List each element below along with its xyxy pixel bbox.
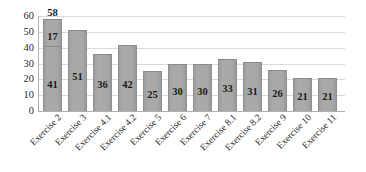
bar[interactable]: 42 xyxy=(118,45,137,112)
bar-segment[interactable]: 21 xyxy=(318,78,337,111)
y-tick-label: 40 xyxy=(4,42,34,53)
bar-chart: 60 50 40 30 20 10 0 58 17 41 51 xyxy=(0,0,366,172)
x-axis-line xyxy=(38,111,345,112)
bar[interactable]: 21 xyxy=(293,78,312,111)
y-tick-label: 50 xyxy=(4,27,34,38)
y-tick-label: 0 xyxy=(4,106,34,117)
bar-segment[interactable]: 26 xyxy=(268,70,287,111)
bar-value-label: 33 xyxy=(219,84,236,95)
bar[interactable]: 30 xyxy=(193,64,212,112)
bar-slot: 21 xyxy=(293,16,312,111)
bar[interactable]: 25 xyxy=(143,71,162,111)
bar-segment[interactable]: 30 xyxy=(193,64,212,112)
bar-slot: 33 xyxy=(218,16,237,111)
bar-segment-upper[interactable]: 17 xyxy=(43,19,62,46)
bar-segment-lower[interactable]: 41 xyxy=(43,46,62,111)
bar-series: 58 17 41 51 36 xyxy=(39,16,345,111)
bar-slot: 30 xyxy=(193,16,212,111)
bar-value-label: 36 xyxy=(94,80,111,91)
bar-segment-label: 17 xyxy=(44,32,61,43)
bar-segment[interactable]: 21 xyxy=(293,78,312,111)
bar[interactable]: 36 xyxy=(93,54,112,111)
bar-segment-label: 41 xyxy=(44,80,61,91)
bar-segment[interactable]: 31 xyxy=(243,62,262,111)
bar-slot: 51 xyxy=(68,16,87,111)
bar-segment[interactable]: 42 xyxy=(118,45,137,112)
bar[interactable]: 31 xyxy=(243,62,262,111)
bar-slot: 42 xyxy=(118,16,137,111)
bar-segment[interactable]: 51 xyxy=(68,30,87,111)
bar-slot: 58 17 41 xyxy=(43,16,62,111)
y-tick-label: 30 xyxy=(4,58,34,69)
bar-slot: 21 xyxy=(318,16,337,111)
bar-slot: 31 xyxy=(243,16,262,111)
bar-value-label: 25 xyxy=(144,90,161,101)
y-tick-label: 10 xyxy=(4,90,34,101)
bar-slot: 25 xyxy=(143,16,162,111)
bar-slot: 26 xyxy=(268,16,287,111)
bar[interactable]: 17 41 xyxy=(43,19,62,111)
bar-slot: 30 xyxy=(168,16,187,111)
bar-value-label: 21 xyxy=(294,92,311,103)
bar[interactable]: 51 xyxy=(68,30,87,111)
bar-segment[interactable]: 36 xyxy=(93,54,112,111)
bar-segment[interactable]: 25 xyxy=(143,71,162,111)
bar-slot: 36 xyxy=(93,16,112,111)
bar-total-label: 58 xyxy=(40,8,65,19)
bar-value-label: 51 xyxy=(69,72,86,83)
bar-segment[interactable]: 30 xyxy=(168,64,187,112)
bar[interactable]: 21 xyxy=(318,78,337,111)
bar-value-label: 31 xyxy=(244,87,261,98)
bar-value-label: 30 xyxy=(169,87,186,98)
bar[interactable]: 33 xyxy=(218,59,237,111)
bar-segment[interactable]: 33 xyxy=(218,59,237,111)
bar[interactable]: 30 xyxy=(168,64,187,112)
y-tick-label: 60 xyxy=(4,11,34,22)
x-axis-labels: Exercise 2 Exercise 3 Exercise 4.1 Exerc… xyxy=(39,113,345,172)
bar-value-label: 30 xyxy=(194,87,211,98)
bar-value-label: 42 xyxy=(119,80,136,91)
bar-value-label: 26 xyxy=(269,89,286,100)
y-tick-label: 20 xyxy=(4,74,34,85)
bar-value-label: 21 xyxy=(319,92,336,103)
bar[interactable]: 26 xyxy=(268,70,287,111)
